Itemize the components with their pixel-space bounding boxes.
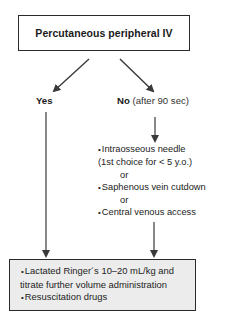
yes-label: Yes xyxy=(36,95,53,106)
bullet-icon: • xyxy=(21,293,24,302)
alternative-item: •Central venous access xyxy=(98,206,206,219)
alternative-note: (1st choice for < 5 y.o.) xyxy=(98,156,206,168)
or-connector: or xyxy=(98,194,206,206)
start-box-title: Percutaneous peripheral IV xyxy=(35,27,172,39)
alternative-item: •Saphenous vein cutdown xyxy=(98,181,206,194)
bullet-icon: • xyxy=(98,208,101,217)
or-connector: or xyxy=(98,169,206,181)
bullet-icon: • xyxy=(21,267,24,276)
arrow-to-no xyxy=(120,59,153,91)
no-condition: (after 90 sec) xyxy=(132,95,189,106)
alternative-item: •Intraosseous needle xyxy=(98,143,206,156)
result-text: Lactated Ringer´s 10–20 mL/kg and xyxy=(25,265,174,276)
bullet-icon: • xyxy=(98,145,101,154)
result-text: titrate further volume administration xyxy=(20,279,167,290)
bullet-icon: • xyxy=(98,183,101,192)
no-branch-label: No (after 90 sec) xyxy=(117,95,189,106)
or-text: or xyxy=(120,170,128,180)
no-label: No xyxy=(117,95,130,106)
result-text: Resuscitation drugs xyxy=(25,291,107,302)
alternative-text: Saphenous vein cutdown xyxy=(102,182,206,192)
start-box: Percutaneous peripheral IV xyxy=(18,15,190,51)
alternatives-list: •Intraosseous needle (1st choice for < 5… xyxy=(98,143,206,220)
result-box: •Lactated Ringer´s 10–20 mL/kg and titra… xyxy=(9,259,196,311)
result-item: •Resuscitation drugs xyxy=(21,291,195,305)
alternative-text: Intraosseous needle xyxy=(102,144,186,154)
alternative-note-text: (1st choice for < 5 y.o.) xyxy=(98,157,192,167)
alternative-text: Central venous access xyxy=(102,207,196,217)
or-text: or xyxy=(120,195,128,205)
result-item-continuation: titrate further volume administration xyxy=(20,279,195,292)
arrow-to-yes xyxy=(54,59,89,91)
result-item: •Lactated Ringer´s 10–20 mL/kg and xyxy=(21,265,195,279)
